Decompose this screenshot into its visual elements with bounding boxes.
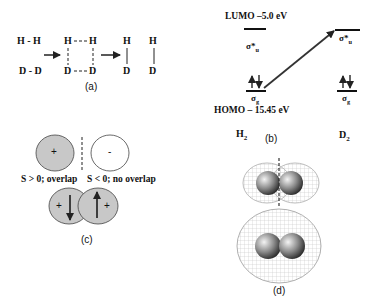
atom-sphere — [255, 233, 281, 259]
sigma-g-d2: σg — [342, 94, 350, 105]
ts-bottom-left: D — [64, 66, 71, 76]
product-1-top: H — [123, 36, 131, 46]
caption-no-overlap: S < 0; no overlap — [87, 175, 156, 185]
caption-overlap: S > 0; overlap — [21, 175, 77, 185]
orbital-overlap-right — [78, 188, 118, 224]
product-2-bottom: D — [149, 66, 156, 76]
panel-d-graphics — [237, 158, 321, 283]
ts-bottom-right: D — [89, 66, 96, 76]
panel-b-label: (b) — [265, 134, 277, 144]
molecule-d2: D2 — [339, 130, 350, 143]
atom-sphere — [256, 171, 280, 195]
lumo-label: LUMO –5.0 eV — [225, 12, 287, 22]
product-2-top: H — [149, 36, 157, 46]
sigma-u-h2: σ*u — [246, 42, 259, 53]
ts-top-left: H — [64, 36, 72, 46]
reactant-h2: H - H — [17, 36, 41, 46]
atom-sphere — [279, 233, 305, 259]
homo-label: HOMO – 15.45 eV — [214, 106, 289, 116]
molecule-h2: H2 — [236, 129, 247, 142]
minus-sign: - — [108, 147, 111, 157]
plus-sign: + — [56, 201, 62, 211]
product-1-bottom: D — [123, 66, 130, 76]
panel-c-label: (c) — [81, 235, 93, 245]
electron-transfer-arrow — [264, 31, 334, 88]
panel-d-label: (d) — [273, 286, 285, 296]
sigma-u-d2: σ*u — [339, 34, 352, 45]
panel-a-graphics — [44, 48, 154, 65]
panel-a-label: (a) — [85, 82, 97, 92]
plus-sign: + — [51, 147, 57, 157]
atom-sphere — [279, 171, 303, 195]
sigma-g-h2: σg — [251, 94, 259, 105]
plus-sign: + — [104, 201, 110, 211]
reactant-d2: D - D — [19, 66, 42, 76]
ts-top-right: H — [89, 36, 97, 46]
